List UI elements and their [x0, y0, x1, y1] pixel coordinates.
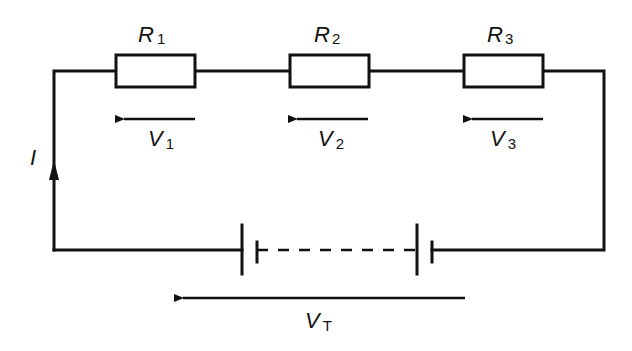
voltage-v3-label: V3	[490, 126, 516, 152]
resistor-r2	[290, 55, 369, 87]
resistor-r3	[464, 55, 543, 87]
resistor-r1	[116, 55, 195, 87]
resistor-r1-label: R1	[138, 22, 165, 47]
resistor-r2-label: R2	[314, 22, 340, 47]
current-label: I	[30, 145, 36, 170]
current-arrow-icon	[49, 160, 59, 180]
voltage-v2-label: V2	[318, 126, 344, 152]
voltage-v1-label: V1	[148, 126, 174, 152]
series-circuit-diagram: R1 R2 R3 V1 V2 V3 I VT	[0, 0, 632, 351]
resistor-r3-label: R3	[487, 22, 513, 47]
wire-right	[432, 71, 604, 250]
wire-left-top	[54, 71, 116, 250]
total-voltage-label: VT	[305, 308, 332, 334]
